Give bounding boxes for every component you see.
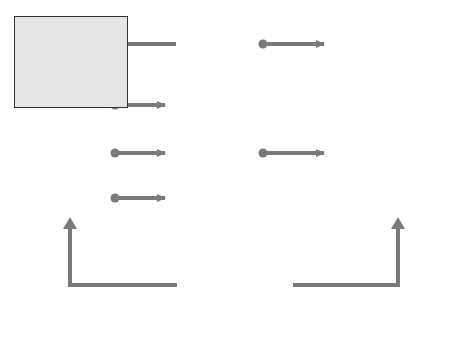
core-job-characteristics-box	[14, 16, 128, 108]
arrow-moderators-to-core	[70, 224, 177, 285]
arrow-moderators-to-outcomes	[293, 224, 398, 285]
